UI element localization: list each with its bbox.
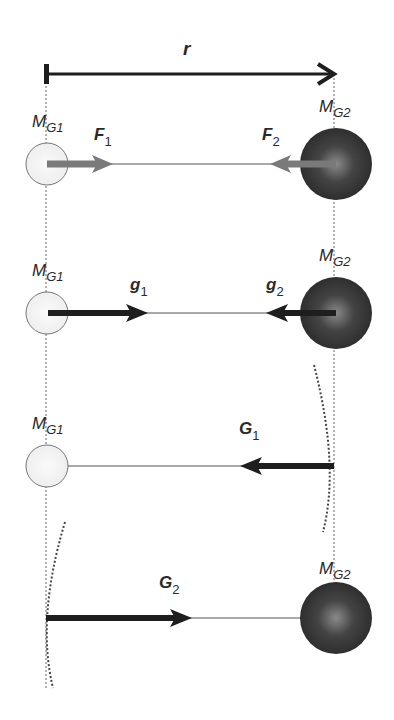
potential-2-label: G2 — [159, 573, 179, 597]
large-mass-icon — [300, 582, 372, 654]
potential-1-arrow — [240, 457, 334, 475]
row-potential-2: MG2 G2 — [46, 522, 372, 688]
mass-2-label: MG2 — [319, 97, 351, 120]
field-1-label: g1 — [129, 275, 148, 299]
small-mass-icon — [26, 445, 68, 487]
force-2-label: F2 — [262, 125, 280, 149]
row-force: MG1 MG2 F1 F2 — [26, 97, 372, 200]
mass-1-label: MG1 — [32, 112, 64, 135]
row-field: MG1 MG2 g1 g2 — [26, 246, 372, 349]
gravitation-diagram: r MG1 MG2 F1 F2 MG1 MG2 — [0, 0, 394, 720]
equipotential-arc — [47, 522, 65, 688]
force-1-label: F1 — [94, 125, 112, 149]
potential-1-label: G1 — [239, 419, 259, 443]
row-potential-1: MG1 G1 — [26, 365, 334, 532]
mass-2-label: MG2 — [319, 559, 351, 582]
potential-2-arrow — [46, 609, 192, 627]
mass-1-label: MG1 — [32, 414, 64, 437]
distance-label: r — [183, 38, 192, 59]
mass-2-label: MG2 — [319, 246, 351, 269]
distance-arrow — [44, 64, 334, 84]
mass-1-label: MG1 — [32, 261, 64, 284]
equipotential-arc — [314, 365, 330, 532]
field-2-label: g2 — [265, 275, 284, 299]
